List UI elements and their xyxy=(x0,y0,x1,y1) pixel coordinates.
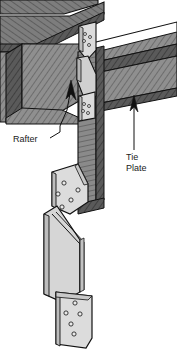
detail-lower-edge xyxy=(56,292,60,346)
bolt-hole xyxy=(78,312,82,316)
bolt-hole xyxy=(84,33,87,36)
figure-canvas: Rafter Tie Plate xyxy=(0,0,177,350)
middle-tie-plate-connector xyxy=(79,92,95,121)
label-rafter: Rafter xyxy=(13,134,38,144)
bolt-hole xyxy=(88,44,91,47)
bolt-hole xyxy=(82,110,85,113)
detail-strap-right-edge xyxy=(80,238,84,292)
bolt-hole xyxy=(83,40,86,43)
label-tie-plate-line1: Tie xyxy=(126,152,138,162)
detail-strap-left-edge xyxy=(44,214,49,296)
technical-illustration-figure: Rafter Tie Plate xyxy=(0,0,177,350)
post-side-face xyxy=(96,46,104,204)
detail-upper-edge xyxy=(52,172,56,208)
detail-lower-body xyxy=(56,292,92,348)
detail-tie-plate-lower xyxy=(56,292,92,348)
bolt-hole xyxy=(56,192,60,196)
bolt-hole xyxy=(76,188,80,192)
bolt-hole xyxy=(69,322,73,326)
bolt-hole xyxy=(87,112,90,115)
bolt-hole xyxy=(73,301,77,305)
bent-strap-edge xyxy=(77,58,81,82)
upper-connector-edge xyxy=(79,26,83,52)
bolt-hole xyxy=(72,332,76,336)
bolt-hole xyxy=(88,105,91,108)
label-tie-plate-line2: Plate xyxy=(126,163,147,173)
middle-connector-edge xyxy=(79,96,82,121)
bolt-hole xyxy=(62,181,66,185)
bolt-hole xyxy=(60,205,64,209)
bolt-hole xyxy=(83,103,86,106)
bolt-hole xyxy=(89,36,92,39)
bolt-hole xyxy=(64,311,68,315)
bolt-hole xyxy=(69,198,73,202)
